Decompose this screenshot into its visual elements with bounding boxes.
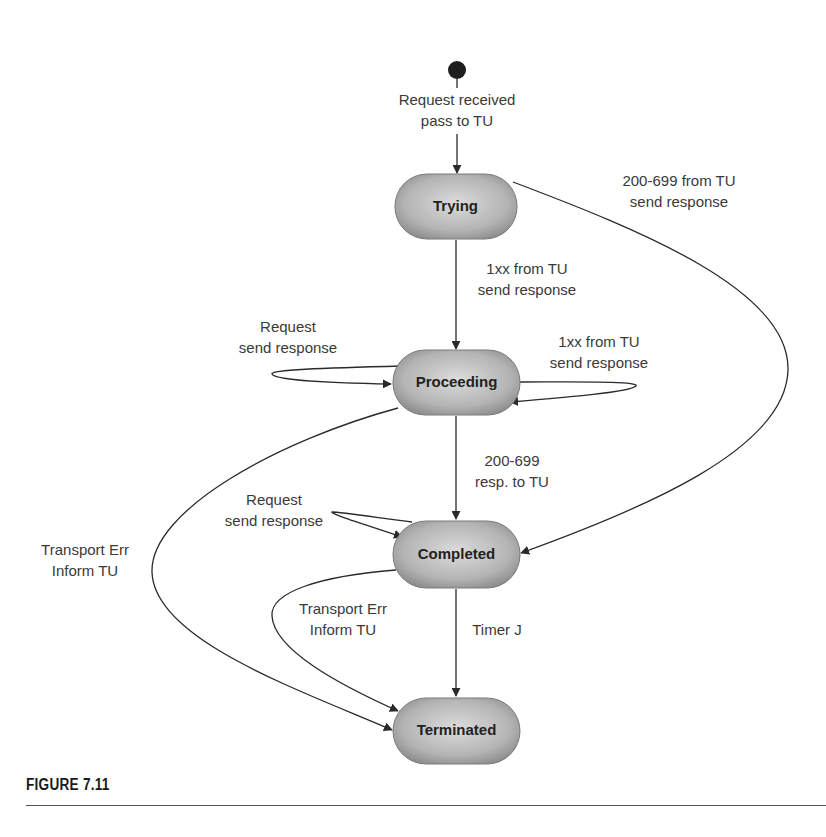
label-1xx-from-tu-a: 1xx from TU send response [462,258,592,300]
caption-rule [26,805,826,806]
label-request-received: Request received pass to TU [384,89,530,131]
label-request-completed: Request send response [214,489,334,531]
edge-completed-to-terminated-error [272,570,398,711]
figure-caption: FIGURE 7.11 [26,776,110,794]
label-1xx-from-tu-b: 1xx from TU send response [534,331,664,373]
edge-proceeding-self-1xx [510,382,636,402]
state-proceeding-label: Proceeding [393,373,520,390]
initial-state-dot [448,61,466,79]
edge-proceeding-self-request [272,366,402,384]
label-transport-err-proceeding: Transport Err Inform TU [30,539,140,581]
label-200-699-resp: 200-699 resp. to TU [458,450,566,492]
label-request-proceeding: Request send response [228,316,348,358]
edge-proceeding-to-terminated [152,408,398,730]
label-transport-err-completed: Transport Err Inform TU [288,598,398,640]
state-completed-label: Completed [393,545,520,562]
state-trying-label: Trying [392,197,519,214]
label-200-699-from-tu: 200-699 from TU send response [604,170,754,212]
label-timer-j: Timer J [462,619,532,640]
state-terminated-label: Terminated [393,721,520,738]
